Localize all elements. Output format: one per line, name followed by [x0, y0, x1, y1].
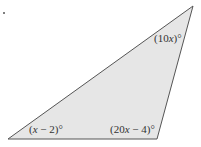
- angle-top-suffix: )°: [174, 32, 182, 44]
- angle-bottom-right-suffix: − 4)°: [130, 123, 155, 135]
- angle-label-bottom-left: (x − 2)°: [29, 124, 63, 135]
- triangle-shape: [8, 6, 193, 139]
- angle-label-top: (10x)°: [154, 33, 182, 44]
- angle-top-prefix: (10: [154, 32, 169, 44]
- angle-bottom-left-suffix: − 2)°: [38, 123, 63, 135]
- stray-dot: [3, 12, 5, 14]
- angle-label-bottom-right: (20x − 4)°: [110, 124, 155, 135]
- angle-bottom-right-prefix: (20: [110, 123, 125, 135]
